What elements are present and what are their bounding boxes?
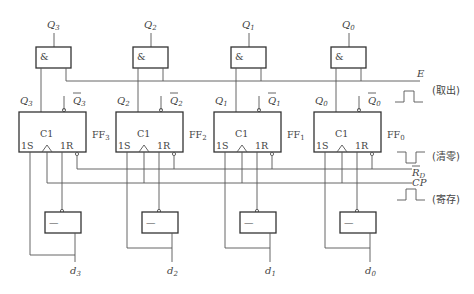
data-input-label: d0: [365, 265, 376, 278]
clock-label: CP: [412, 177, 427, 188]
reset-pulse-icon: [397, 152, 425, 163]
data-input-label: d1: [265, 265, 276, 278]
not-symbol: —: [244, 217, 254, 228]
not-symbol: —: [146, 217, 156, 228]
data-input-label: d3: [70, 265, 81, 278]
enable-pulse-icon: [395, 91, 423, 102]
ff-label: FF3: [92, 129, 110, 142]
qbar-label: Q1: [268, 95, 281, 108]
output-label: Q2: [144, 19, 157, 32]
enable-label: E: [416, 68, 425, 79]
pin-clock: C1: [235, 128, 248, 139]
output-label: Q1: [242, 19, 255, 32]
ff-label: FF0: [387, 129, 405, 142]
q-label: Q2: [117, 95, 130, 108]
clock-pulse-icon: [397, 189, 425, 200]
and-symbol: &: [137, 51, 145, 62]
stage-1: Q1 & Q1 Q1 1S C1 1R FF1 — d1: [214, 19, 305, 278]
pin-clock: C1: [40, 128, 53, 139]
ff-label: FF1: [287, 129, 305, 142]
pin-clock: C1: [335, 128, 348, 139]
register-circuit-diagram: E (取出) RD (清零) CP (寄存) Q3 & Q3 Q3 1S C1 …: [0, 0, 474, 294]
output-label: Q0: [342, 19, 355, 32]
q-label: Q0: [315, 95, 328, 108]
qbar-label: Q0: [368, 95, 381, 108]
qbar-label: Q3: [73, 95, 86, 108]
clock-note: (寄存): [432, 193, 460, 205]
q-label: Q3: [20, 95, 33, 108]
pin-reset: 1R: [355, 140, 369, 151]
not-symbol: —: [49, 217, 59, 228]
reset-note: (清零): [432, 150, 460, 162]
pin-reset: 1R: [60, 140, 74, 151]
stage-2: Q2 & Q2 Q2 1S C1 1R FF2 — d2: [116, 19, 207, 278]
output-label: Q3: [47, 19, 60, 32]
q-label: Q1: [215, 95, 228, 108]
data-input-label: d2: [167, 265, 178, 278]
stage-0: Q0 & Q0 Q0 1S C1 1R FF0 — d0: [314, 19, 405, 278]
and-symbol: &: [335, 51, 343, 62]
qbar-label: Q2: [170, 95, 183, 108]
pin-reset: 1R: [157, 140, 171, 151]
and-symbol: &: [40, 51, 48, 62]
pin-reset: 1R: [255, 140, 269, 151]
enable-note: (取出): [432, 84, 460, 96]
pin-set: 1S: [21, 140, 34, 151]
stage-3: Q3 & Q3 Q3 1S C1 1R FF3 — d3: [19, 19, 110, 278]
pin-set: 1S: [118, 140, 131, 151]
pin-set: 1S: [316, 140, 329, 151]
ff-label: FF2: [189, 129, 207, 142]
pin-clock: C1: [137, 128, 150, 139]
not-symbol: —: [344, 217, 354, 228]
and-symbol: &: [235, 51, 243, 62]
pin-set: 1S: [216, 140, 229, 151]
